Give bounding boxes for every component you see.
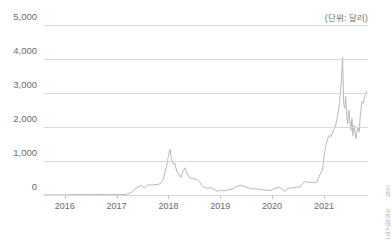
x-axis: 201620172018201920202021 xyxy=(44,195,368,225)
gridline: 4,000 xyxy=(44,59,368,60)
x-tick-mark xyxy=(324,195,325,199)
x-tick-label: 2021 xyxy=(314,201,334,211)
y-tick-label: 1,000 xyxy=(13,148,37,158)
x-tick-label: 2017 xyxy=(107,201,127,211)
plot-area: 5,0004,0003,0002,0001,0000 xyxy=(44,25,368,195)
y-tick-label: 4,000 xyxy=(13,46,37,56)
x-tick-mark xyxy=(65,195,66,199)
unit-annotation: (단위: 달러) xyxy=(325,11,368,23)
gridline: 3,000 xyxy=(44,93,368,94)
x-tick-label: 2020 xyxy=(262,201,282,211)
y-tick-label: 2,000 xyxy=(13,114,37,124)
price-line-chart: (단위: 달러) 5,0004,0003,0002,0001,0000 2016… xyxy=(0,0,392,247)
x-tick-mark xyxy=(168,195,169,199)
gridline: 2,000 xyxy=(44,127,368,128)
y-tick-label: 3,000 xyxy=(13,80,37,90)
source-credit: 출처: 코인데스크 xyxy=(384,185,390,239)
x-tick-label: 2016 xyxy=(55,201,75,211)
gridline: 1,000 xyxy=(44,161,368,162)
gridline: 5,000 xyxy=(44,25,368,26)
x-tick-label: 2018 xyxy=(158,201,178,211)
y-tick-label: 0 xyxy=(32,182,37,192)
x-tick-mark xyxy=(117,195,118,199)
x-tick-label: 2019 xyxy=(210,201,230,211)
price-series-svg xyxy=(44,25,368,195)
x-tick-mark xyxy=(220,195,221,199)
y-tick-label: 5,000 xyxy=(13,12,37,22)
x-tick-mark xyxy=(272,195,273,199)
